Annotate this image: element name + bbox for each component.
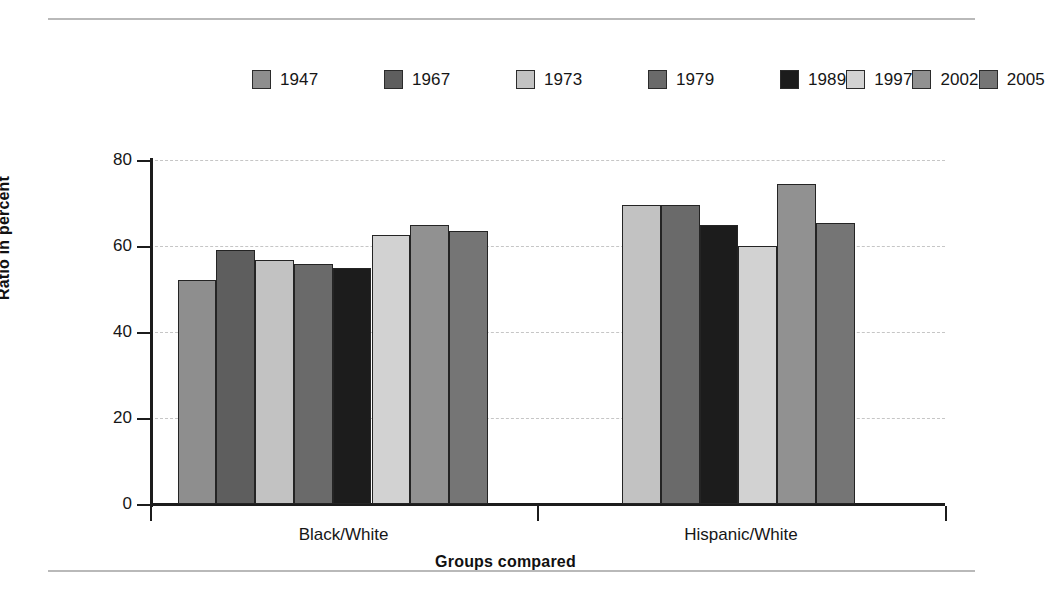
bar-hispanic-white-1979 bbox=[661, 205, 700, 504]
bar-hispanic-white-2002 bbox=[777, 184, 816, 504]
bar-hispanic-white-2005 bbox=[816, 223, 855, 504]
bar-black-white-2005 bbox=[449, 231, 488, 504]
bar-black-white-1997 bbox=[372, 235, 411, 504]
bar-black-white-1989 bbox=[333, 268, 372, 505]
bar-hispanic-white-1997 bbox=[738, 246, 777, 504]
x-category-tick-0 bbox=[150, 506, 152, 521]
bar-black-white-2002 bbox=[410, 225, 449, 504]
bar-black-white-1979 bbox=[294, 264, 333, 504]
bar-black-white-1967 bbox=[216, 250, 255, 504]
bar-hispanic-white-1973 bbox=[622, 205, 661, 504]
x-category-tick-1 bbox=[537, 506, 539, 521]
bar-black-white-1947 bbox=[178, 280, 217, 504]
x-category-label-1: Hispanic/White bbox=[537, 526, 945, 543]
bar-hispanic-white-1989 bbox=[700, 225, 739, 505]
legend-label: 2005 bbox=[1007, 71, 1045, 88]
bar-black-white-1973 bbox=[255, 260, 294, 504]
x-axis-title: Groups compared bbox=[0, 553, 1011, 571]
x-category-tick-2 bbox=[945, 506, 947, 521]
x-category-label-0: Black/White bbox=[150, 526, 537, 543]
